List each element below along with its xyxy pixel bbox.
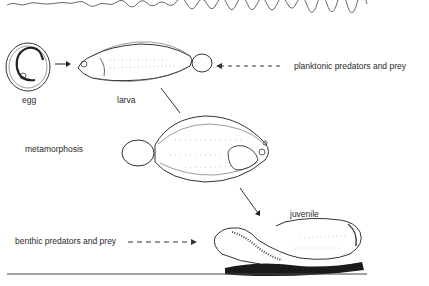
line-larva-to-metamorphosis: [161, 88, 180, 113]
label-planktonic: planktonic predators and prey: [294, 61, 406, 71]
water-surface-line: [7, 0, 367, 13]
label-juvenile: juvenile: [290, 209, 319, 219]
label-benthic: benthic predators and prey: [15, 236, 116, 246]
larva-illustration: [78, 42, 212, 82]
label-larva: larva: [117, 95, 135, 105]
arrow-egg-to-larva: [55, 61, 71, 67]
juvenile-illustration: [214, 218, 364, 276]
arrow-benthic: [128, 239, 197, 245]
arrow-metamorphosis-to-juvenile: [240, 188, 260, 216]
arrow-planktonic: [216, 63, 284, 69]
label-egg: egg: [22, 95, 36, 105]
egg-illustration: [6, 43, 50, 91]
metamorphosis-illustration: [122, 116, 269, 182]
label-metamorphosis: metamorphosis: [25, 144, 83, 154]
